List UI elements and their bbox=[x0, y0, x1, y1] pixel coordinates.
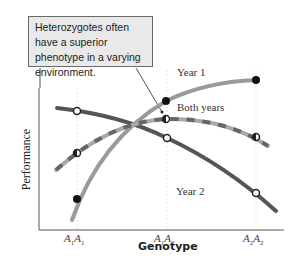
x-tick-a1a1: A1A1 bbox=[64, 232, 84, 247]
year2-point-a1a2 bbox=[164, 135, 171, 142]
callout-pointer-dot bbox=[161, 111, 164, 114]
both-years-line-base bbox=[56, 119, 268, 170]
label-year2: Year 2 bbox=[176, 185, 205, 197]
both-point-a1a1 bbox=[74, 150, 81, 157]
x-axis-label: Genotype bbox=[138, 240, 198, 253]
y-axis-label: Performance bbox=[19, 120, 34, 200]
label-both-years: Both years bbox=[177, 101, 224, 113]
year2-point-a2a2 bbox=[253, 190, 260, 197]
both-point-a1a2 bbox=[163, 116, 170, 123]
annotation-callout: Heterozygotes often have a superior phen… bbox=[28, 16, 153, 67]
x-tick-a2a2: A2A2 bbox=[243, 232, 263, 247]
year1-point-a1a2 bbox=[162, 97, 170, 105]
year1-point-a1a1 bbox=[73, 195, 81, 203]
label-year1: Year 1 bbox=[177, 66, 206, 78]
year2-point-a1a1 bbox=[74, 108, 81, 115]
both-point-a2a2 bbox=[253, 134, 260, 141]
year1-point-a2a2 bbox=[252, 76, 260, 84]
